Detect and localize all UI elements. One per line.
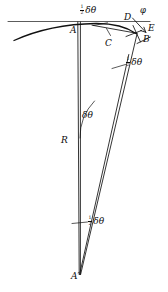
delta-theta-glyph-top: δθ [85,6,96,15]
ray-to-d-outer [81,33,138,274]
label-delta-theta-center: δθ [82,111,93,120]
delta-theta-glyph-mid: δθ [131,58,142,67]
label-point-d: D [124,13,131,22]
vertical-axis-left [78,22,79,275]
label-half-delta-theta-mid: 1 2 δθ [126,57,142,67]
delta-theta-glyph-low: δθ [93,217,104,226]
label-point-e: E [148,24,155,33]
label-half-delta-theta-low: 1 2 δθ [88,216,104,226]
label-point-a: A [70,26,77,35]
ray-to-b-inner [80,55,129,275]
label-point-b: B [143,35,150,44]
angle-tick-half-mid [112,65,126,69]
arrow-e-shaft [133,18,146,32]
fraction-one-half-top: 1 2 [80,5,84,15]
fraction-one-half-mid: 1 2 [126,57,130,67]
fraction-one-half-low: 1 2 [88,216,92,226]
label-point-a-prime: A′ [71,272,80,281]
angle-tick-half-low [72,222,88,224]
label-point-c: C [105,39,112,48]
label-angle-phi: φ [140,6,146,15]
label-half-delta-theta-top: 1 2 δθ [80,5,96,15]
tick-c-pointer [107,29,111,36]
geometric-figure: A B C D E φ R A′ δθ 1 2 δθ 1 2 δθ 1 2 δθ [0,0,168,292]
label-point-r: R [61,136,68,145]
